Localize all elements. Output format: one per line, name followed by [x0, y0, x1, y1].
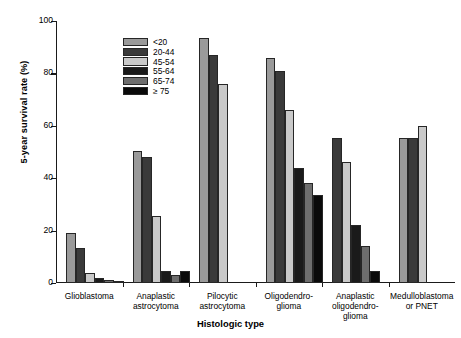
bar-chart: 5-year survival rate (%) 020406080100 Gl…: [0, 0, 461, 338]
legend-swatch-icon: [123, 77, 148, 85]
x-tick-mark: [389, 283, 390, 287]
bar: [304, 183, 314, 283]
bar: [399, 138, 409, 283]
bar: [66, 233, 76, 283]
x-axis-title: Histologic type: [0, 318, 461, 329]
y-axis-title: 5-year survival rate (%): [19, 32, 29, 192]
bar: [370, 271, 380, 283]
legend-item: 45-54: [123, 57, 174, 65]
y-tick-label: 100: [39, 15, 53, 25]
legend-item: 20-44: [123, 48, 174, 56]
bar: [418, 126, 428, 283]
bars: [332, 21, 380, 283]
legend-item: 65-74: [123, 77, 174, 85]
bar: [266, 58, 276, 283]
bar: [171, 275, 181, 283]
legend-swatch-icon: [123, 87, 148, 95]
legend-swatch-icon: [123, 67, 148, 75]
legend-label: 65-74: [153, 76, 174, 86]
legend-label: <20: [153, 37, 167, 47]
y-tick-label: 0: [48, 277, 53, 287]
bar: [275, 71, 285, 283]
legend-label: 55-64: [153, 66, 174, 76]
legend-item: ≥ 75: [123, 86, 174, 94]
bar: [152, 216, 162, 283]
y-tick-label: 40: [43, 172, 53, 182]
bar: [76, 248, 86, 283]
legend-swatch-icon: [123, 38, 148, 46]
legend-swatch-icon: [123, 57, 148, 65]
bar: [285, 110, 295, 283]
bar: [133, 151, 143, 283]
bar: [85, 273, 95, 283]
y-tick-label: 80: [43, 67, 53, 77]
bar-group: Oligodendro-glioma: [256, 21, 323, 283]
x-tick-mark: [322, 283, 323, 287]
legend-label: 45-54: [153, 57, 174, 67]
bar: [161, 271, 171, 283]
legend-swatch-icon: [123, 48, 148, 56]
bar: [361, 246, 371, 283]
legend-item: 55-64: [123, 67, 174, 75]
bar: [408, 138, 418, 283]
bar: [218, 84, 228, 283]
y-tick-label: 60: [43, 120, 53, 130]
bar: [142, 157, 152, 283]
legend-label: ≥ 75: [153, 86, 169, 96]
x-tick-mark: [189, 283, 190, 287]
bar: [199, 38, 209, 283]
bar: [209, 55, 219, 283]
legend-item: <20: [123, 38, 174, 46]
bars: [66, 21, 124, 283]
bars: [399, 21, 428, 283]
y-tick-label: 20: [43, 225, 53, 235]
bar: [104, 280, 114, 283]
bar: [351, 225, 361, 283]
bar-group: Glioblastoma: [56, 21, 123, 283]
bars: [266, 21, 324, 283]
bar: [332, 138, 342, 283]
bar-group: Pilocyticastrocytoma: [189, 21, 256, 283]
bars: [199, 21, 228, 283]
bar: [342, 162, 352, 283]
bar: [294, 168, 304, 283]
x-tick-mark: [123, 283, 124, 287]
bar: [95, 278, 105, 283]
plot-area: 020406080100 GlioblastomaAnaplasticastro…: [56, 21, 455, 283]
legend: <20 20-44 45-54 55-64 65-74 ≥ 75: [123, 38, 174, 95]
x-tick-mark: [256, 283, 257, 287]
bar-group: Anaplasticoligodendro-glioma: [322, 21, 389, 283]
x-group-label: Medulloblastomaor PNET: [374, 291, 461, 311]
bar-group: Medulloblastomaor PNET: [389, 21, 456, 283]
legend-label: 20-44: [153, 47, 174, 57]
